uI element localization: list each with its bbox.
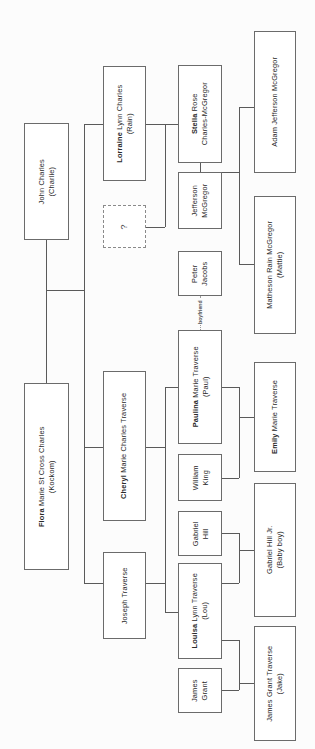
person-full-name-adam-mcgregor: Adam Jefferson McGregor: [270, 57, 279, 147]
person-label-stella-mcgregor: Stella RoseCharles-McGregor: [190, 82, 210, 145]
person-label-unknown-partner: ?: [119, 224, 131, 229]
person-full-name-matheson-mcgregor: Matheson Rain McGregor: [265, 221, 274, 309]
edge-hill-couple: [239, 533, 240, 583]
person-alias-gabriel-hill-jr: (Baby boy): [275, 531, 284, 568]
person-alias-john-charles: (Charlie): [47, 167, 56, 197]
person-alias-gabriel-hill: Hill: [200, 528, 209, 539]
edge-lorraine-couple: [165, 124, 166, 227]
person-node-emily-traverse[interactable]: Emily Marie Traverse: [254, 362, 296, 472]
person-label-adam-mcgregor: Adam Jefferson McGregor: [270, 57, 280, 147]
edge-william-right: [222, 478, 239, 479]
person-node-james-grant[interactable]: JamesGrant: [178, 668, 222, 713]
person-alias-jefferson-mcgregor: McGregor: [200, 183, 209, 217]
person-label-gabriel-hill-jr: Gabriel Hill Jr.(Baby boy): [265, 526, 285, 574]
person-full-name-gabriel-hill: Gabriel: [190, 521, 199, 546]
person-label-louisa-traverse: Louisa Lynn Traverse(Lou): [190, 573, 210, 648]
person-label-jefferson-mcgregor: JeffersonMcGregor: [190, 183, 210, 217]
edge-to-matheson: [239, 264, 254, 265]
person-label-cheryl-traverse: Cheryl Marie Charles Traverse: [120, 393, 130, 499]
edge-parents-children: [84, 124, 85, 583]
person-given-name-flora-charles: Flora: [37, 508, 46, 527]
person-full-name-james-grant-jake: James Grant Traverse: [265, 645, 274, 721]
edge-to-paulina: [165, 387, 178, 388]
person-node-john-charles[interactable]: John Charles(Charlie): [24, 123, 69, 240]
edge-to-cheryl: [84, 447, 103, 448]
person-alias-matheson-mcgregor: (Mattie): [275, 252, 284, 278]
person-label-emily-traverse: Emily Marie Traverse: [270, 380, 280, 454]
boyfriend-label: boyfriend: [197, 299, 203, 325]
person-full-name-emily-traverse: Marie Traverse: [270, 380, 279, 434]
person-node-gabriel-hill[interactable]: GabrielHill: [178, 511, 222, 556]
person-node-louisa-traverse[interactable]: Louisa Lynn Traverse(Lou): [178, 563, 222, 659]
edge-mcgregor-kids-2: [239, 172, 240, 264]
person-node-james-grant-jake[interactable]: James Grant Traverse(Jake): [254, 626, 296, 741]
person-alias-james-grant: Grant: [200, 681, 209, 700]
person-node-gabriel-hill-jr[interactable]: Gabriel Hill Jr.(Baby boy): [254, 483, 296, 617]
person-alias-paulina-traverse: (Paul): [200, 377, 209, 398]
person-full-name-unknown-partner: ?: [119, 224, 129, 229]
person-label-gabriel-hill: GabrielHill: [190, 521, 210, 546]
person-node-flora-charles[interactable]: Flora Marie St Cross Charles(Kockom): [24, 383, 69, 570]
person-label-matheson-mcgregor: Matheson Rain McGregor(Mattie): [265, 221, 285, 309]
person-full-name-william-king: William: [190, 465, 199, 490]
person-label-james-grant: JamesGrant: [190, 679, 210, 702]
person-label-john-charles: John Charles(Charlie): [37, 159, 57, 204]
person-node-jefferson-mcgregor[interactable]: JeffersonMcGregor: [178, 172, 222, 229]
person-node-william-king[interactable]: WilliamKing: [178, 454, 222, 501]
person-node-peter-jacobs[interactable]: PeterJacobs: [178, 251, 222, 296]
person-given-name-stella-mcgregor: Stella: [190, 114, 199, 135]
person-node-lorraine-charles[interactable]: Lorraine Lynn Charles(Rain): [103, 66, 146, 181]
person-label-paulina-traverse: Paulina Marie Traverse(Paul): [190, 347, 210, 428]
person-given-name-louisa-traverse: Louisa: [190, 624, 199, 649]
edge-lorraine-right: [146, 124, 165, 125]
person-node-matheson-mcgregor[interactable]: Matheson Rain McGregor(Mattie): [254, 196, 296, 334]
person-node-unknown-partner[interactable]: ?: [103, 205, 146, 248]
person-full-name-james-grant: James: [190, 679, 199, 702]
person-node-joseph-traverse[interactable]: Joseph Traverse: [103, 552, 146, 639]
person-alias-louisa-traverse: (Lou): [200, 602, 209, 620]
edge-to-emily: [239, 417, 254, 418]
person-alias-james-grant-jake: (Jake): [275, 673, 284, 694]
person-label-peter-jacobs: PeterJacobs: [190, 261, 210, 285]
edge-joseph-right: [146, 583, 165, 584]
person-node-stella-mcgregor[interactable]: Stella RoseCharles-McGregor: [178, 65, 222, 163]
person-node-paulina-traverse[interactable]: Paulina Marie Traverse(Paul): [178, 330, 222, 444]
edge-louisa-right-1: [222, 583, 239, 584]
family-tree-diagram: boyfriend John Charles(Charlie)Flora Mar…: [0, 0, 315, 749]
person-full-name-louisa-traverse: Lynn Traverse: [190, 573, 199, 624]
person-label-william-king: WilliamKing: [190, 465, 210, 490]
person-node-adam-mcgregor[interactable]: Adam Jefferson McGregor: [254, 31, 296, 173]
edge-mcgregor-kids: [239, 107, 240, 172]
person-given-name-lorraine-charles: Lorraine: [115, 132, 124, 163]
person-full-name-gabriel-hill-jr: Gabriel Hill Jr.: [265, 526, 274, 574]
edge-paulina-right: [222, 387, 239, 388]
person-full-name-joseph-traverse: Joseph Traverse: [120, 567, 129, 624]
edge-to-jake: [239, 683, 254, 684]
person-given-name-emily-traverse: Emily: [270, 434, 279, 454]
edge-to-lorraine: [84, 124, 103, 125]
edge-paulina-couple: [239, 387, 240, 478]
edge-jamesgrant-right: [222, 690, 239, 691]
edge-to-gabrieljr: [239, 550, 254, 551]
edge-louisa-right-2: [222, 640, 239, 641]
edge-to-louisa: [165, 612, 178, 613]
person-alias-peter-jacobs: Jacobs: [200, 261, 209, 285]
person-full-name-lorraine-charles: Lynn Charles: [115, 84, 124, 131]
person-full-name-paulina-traverse: Marie Traverse: [190, 347, 199, 401]
person-label-joseph-traverse: Joseph Traverse: [120, 567, 130, 624]
person-full-name-jefferson-mcgregor: Jefferson: [190, 185, 199, 217]
edge-john-down: [46, 239, 47, 290]
edge-to-stella: [165, 124, 178, 125]
person-full-name-flora-charles: Marie St Cross Charles: [37, 426, 46, 508]
person-given-name-paulina-traverse: Paulina: [190, 400, 199, 427]
person-given-name-cheryl-traverse: Cheryl: [120, 475, 129, 499]
person-alias-lorraine-charles: (Rain): [125, 113, 134, 134]
edge-to-adam: [239, 107, 254, 108]
person-node-cheryl-traverse[interactable]: Cheryl Marie Charles Traverse: [103, 371, 146, 521]
edge-cheryl-right: [146, 447, 165, 448]
edge-gabrielhill-right: [222, 533, 239, 534]
edge-to-cheryl-2: [84, 583, 103, 584]
person-alias-william-king: King: [200, 470, 209, 485]
edge-parents-couple: [46, 290, 84, 291]
person-full-name-john-charles: John Charles: [37, 159, 46, 204]
